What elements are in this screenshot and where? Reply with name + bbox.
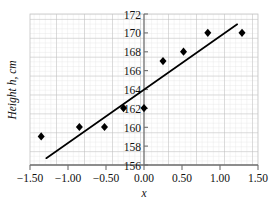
- x-tick-label: 1.00: [210, 172, 230, 184]
- y-tick-label: 162: [124, 103, 142, 115]
- y-tick-label: 166: [124, 65, 142, 77]
- y-tick-label: 168: [124, 46, 142, 58]
- x-axis-title: x: [140, 187, 147, 199]
- y-tick-label: 170: [124, 27, 142, 39]
- y-axis-title: Height h, cm: [6, 60, 19, 120]
- y-tick-labels: 172 170 168 166 164 162 160 158 156: [124, 9, 142, 172]
- x-tick-label: 1.50: [248, 172, 268, 184]
- y-tick-label: 172: [124, 9, 142, 21]
- scatter-plot-svg: 172 170 168 166 164 162 160 158 156 −1.5…: [0, 0, 280, 204]
- chart-figure: 172 170 168 166 164 162 160 158 156 −1.5…: [0, 0, 280, 204]
- x-tick-label: −0.50: [93, 172, 120, 184]
- x-tick-label: −1.00: [55, 172, 82, 184]
- y-tick-label: 160: [124, 122, 142, 134]
- x-tick-label: −1.50: [17, 172, 44, 184]
- x-tick-label: 0.50: [172, 172, 192, 184]
- y-tick-label: 156: [124, 160, 142, 172]
- x-tick-label: 0.00: [134, 172, 154, 184]
- y-tick-label: 158: [124, 141, 142, 153]
